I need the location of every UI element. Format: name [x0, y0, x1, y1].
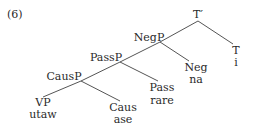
node-pass: Pass: [150, 82, 175, 94]
gloss-pass: rare: [150, 95, 174, 107]
edge-negp-neg: [160, 42, 189, 61]
edge-causp-vp: [43, 81, 81, 97]
node-negp: NegP: [134, 32, 165, 44]
edge-tbar-negp: [160, 21, 198, 42]
edge-tbar-t: [198, 21, 233, 44]
gloss-neg: na: [189, 74, 203, 86]
edge-causp-caus: [81, 81, 120, 101]
gloss-vp: utaw: [29, 109, 56, 121]
gloss-t: i: [234, 57, 238, 69]
edge-negp-passp: [120, 42, 160, 62]
gloss-caus: ase: [114, 114, 133, 126]
node-t-bar: T′: [193, 9, 203, 21]
node-causp: CausP: [46, 71, 81, 83]
edge-passp-pass: [120, 62, 158, 81]
edge-passp-causp: [81, 62, 120, 81]
node-passp: PassP: [90, 52, 122, 64]
